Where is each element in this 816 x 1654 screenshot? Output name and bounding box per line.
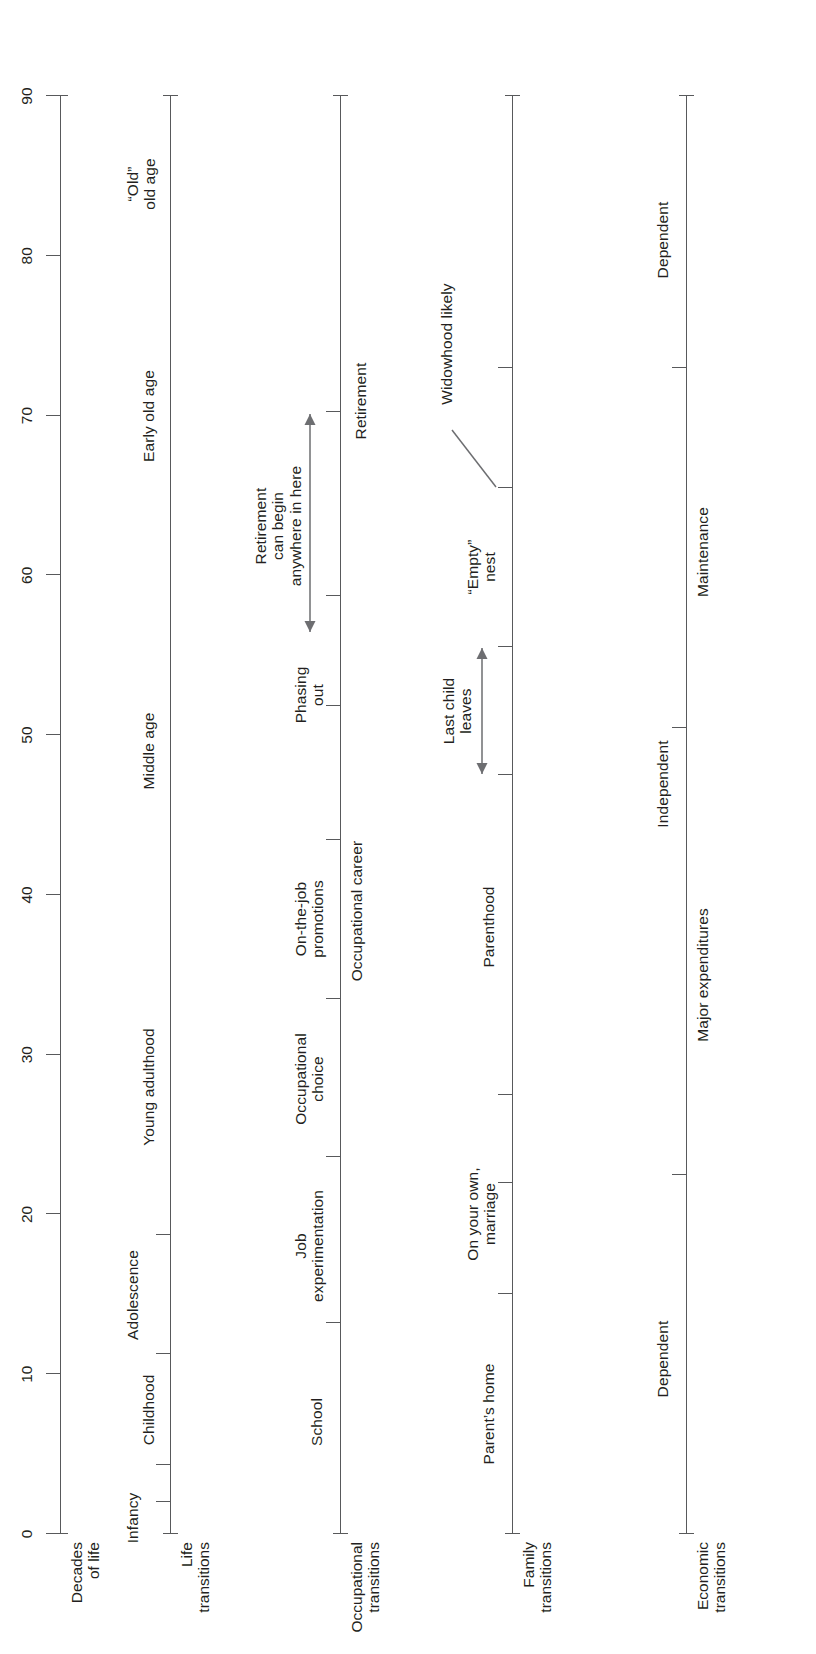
economic-below-label-maintenance: Maintenance [694,507,711,597]
economic-segment-dependent-early: Dependent [654,1321,671,1398]
economic-tick-73 [672,367,686,368]
economic-tick-51 [672,727,686,728]
figure-canvas: 0 10 20 30 40 50 60 70 80 90 Decades of … [0,0,816,1654]
row-label-economic: Economic transitions [694,1542,729,1654]
economic-axis-line [686,96,687,1534]
family-annotation-widowhood: Widowhood likely [438,283,455,404]
economic-below-label-major-expenditures: Major expenditures [694,908,711,1042]
economic-axis-start-cap [679,1533,694,1534]
life-timeline-diagram: 0 10 20 30 40 50 60 70 80 90 Decades of … [0,0,816,1654]
economic-axis-end-cap [679,95,694,96]
economic-tick-23 [672,1174,686,1175]
widowhood-leader-line [0,0,816,1654]
economic-segment-dependent-late: Dependent [654,202,671,279]
economic-segment-independent: Independent [654,740,671,827]
row-label-family: Family transitions [520,1542,555,1654]
